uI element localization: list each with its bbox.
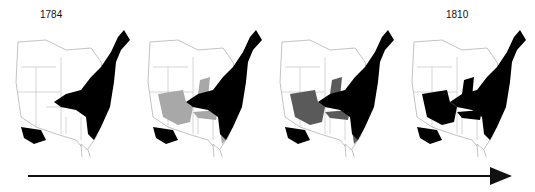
timeline-arrow-icon <box>28 166 513 186</box>
year-label-end: 1810 <box>446 9 468 20</box>
year-label-start: 1784 <box>40 9 62 20</box>
map-stage-3 <box>270 22 395 157</box>
map-1784 <box>6 22 131 157</box>
map-stage-2 <box>138 22 263 157</box>
map-1810 <box>402 22 527 157</box>
